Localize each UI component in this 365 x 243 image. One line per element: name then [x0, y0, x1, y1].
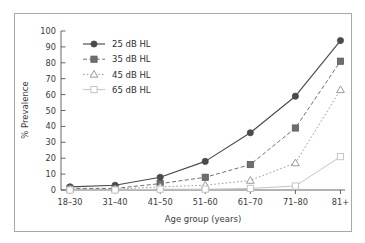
y-axis-tick-labels: 0102030405060708090100 — [40, 26, 56, 195]
x-axis-title: Age group (years) — [165, 214, 242, 224]
legend-label: 25 dB HL — [112, 39, 151, 49]
data-point-marker — [67, 187, 73, 193]
data-point-marker — [292, 93, 298, 99]
data-point-marker — [91, 56, 97, 62]
chart-legend: 25 dB HL35 dB HL45 dB HL65 dB HL — [83, 39, 151, 95]
x-tick-label: 51–60 — [193, 197, 218, 207]
y-tick-label: 50 — [46, 106, 56, 116]
chart-canvas: 0102030405060708090100 18–3031–4041–5051… — [0, 0, 365, 243]
y-tick-label: 30 — [46, 137, 56, 147]
y-tick-label: 80 — [46, 58, 56, 68]
series-lines — [70, 41, 340, 190]
data-point-marker — [91, 41, 97, 47]
y-tick-label: 10 — [46, 169, 56, 179]
legend-label: 35 dB HL — [112, 54, 151, 64]
figure-container: 0102030405060708090100 18–3031–4041–5051… — [0, 0, 365, 243]
data-point-marker — [337, 154, 343, 160]
data-point-marker — [91, 87, 97, 93]
data-point-marker — [337, 37, 343, 43]
data-point-marker — [337, 58, 343, 64]
series-line — [70, 61, 340, 188]
data-point-marker — [202, 158, 208, 164]
data-point-marker — [90, 71, 98, 78]
data-point-marker — [247, 130, 253, 136]
data-point-marker — [337, 86, 345, 93]
y-tick-label: 40 — [46, 121, 56, 131]
x-axis-tick-labels: 18–3031–4041–5051–6061–7071–8081+ — [58, 197, 350, 207]
y-tick-label: 60 — [46, 90, 56, 100]
y-tick-label: 90 — [46, 42, 56, 52]
data-point-marker — [202, 186, 208, 192]
legend-label: 45 dB HL — [112, 70, 151, 80]
y-axis-ticks — [61, 31, 66, 190]
data-point-marker — [112, 187, 118, 193]
y-tick-label: 100 — [40, 26, 56, 36]
y-tick-label: 0 — [51, 185, 56, 195]
y-tick-label: 70 — [46, 74, 56, 84]
x-tick-label: 61–70 — [238, 197, 263, 207]
y-axis-title: % Prevalence — [20, 81, 30, 138]
legend-label: 65 dB HL — [112, 85, 151, 95]
x-tick-label: 18–30 — [58, 197, 83, 207]
data-point-marker — [292, 125, 298, 131]
y-tick-label: 20 — [46, 153, 56, 163]
data-point-marker — [247, 185, 253, 191]
series-markers — [66, 37, 344, 193]
x-tick-label: 31–40 — [103, 197, 128, 207]
data-point-marker — [202, 174, 208, 180]
x-tick-label: 81+ — [332, 197, 349, 207]
data-point-marker — [157, 186, 163, 192]
data-point-marker — [292, 159, 300, 166]
data-point-marker — [247, 161, 253, 167]
x-tick-label: 41–50 — [148, 197, 173, 207]
x-tick-label: 71–80 — [283, 197, 308, 207]
data-point-marker — [292, 183, 298, 189]
data-point-marker — [157, 174, 163, 180]
